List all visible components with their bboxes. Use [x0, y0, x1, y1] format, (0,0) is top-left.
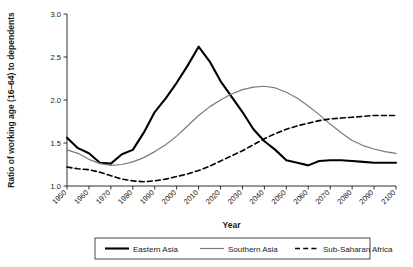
y-tick-label: 2.5	[51, 53, 61, 62]
chart-container: 1.01.52.02.53.01950196019701980199020002…	[0, 0, 413, 267]
x-tick-label: 2040	[248, 188, 266, 206]
x-tick-label: 2050	[270, 188, 288, 206]
legend-label-1: Eastern Asia	[133, 245, 178, 254]
x-tick-label: 1980	[116, 188, 134, 206]
x-tick-label: 1970	[94, 188, 112, 206]
x-tick-label: 2010	[182, 188, 200, 206]
x-axis-title: Year	[223, 220, 242, 230]
x-tick-label: 2080	[335, 188, 353, 206]
x-tick-label: 2100	[379, 188, 397, 206]
x-tick-label: 2000	[160, 188, 178, 206]
y-tick-label: 2.0	[51, 96, 61, 105]
legend-label-2: Southern Asia	[228, 245, 278, 254]
y-tick-label: 3.0	[51, 10, 61, 19]
x-tick-label: 2070	[313, 188, 331, 206]
legend-label-3: Sub-Saharan Africa	[323, 245, 393, 254]
x-tick-label: 1960	[72, 188, 90, 206]
y-tick-label: 1.5	[51, 139, 61, 148]
x-tick-label: 2030	[226, 188, 244, 206]
x-tick-label: 2060	[292, 188, 310, 206]
series-line-sub-saharan-africa	[67, 115, 396, 181]
x-tick-label: 1990	[138, 188, 156, 206]
x-tick-label: 2020	[204, 188, 222, 206]
line-chart: 1.01.52.02.53.01950196019701980199020002…	[0, 0, 413, 267]
series-line-eastern-asia	[67, 47, 396, 166]
y-axis-title: Ratio of working age (16–64) to dependen…	[6, 12, 16, 188]
x-tick-label: 2090	[357, 188, 375, 206]
